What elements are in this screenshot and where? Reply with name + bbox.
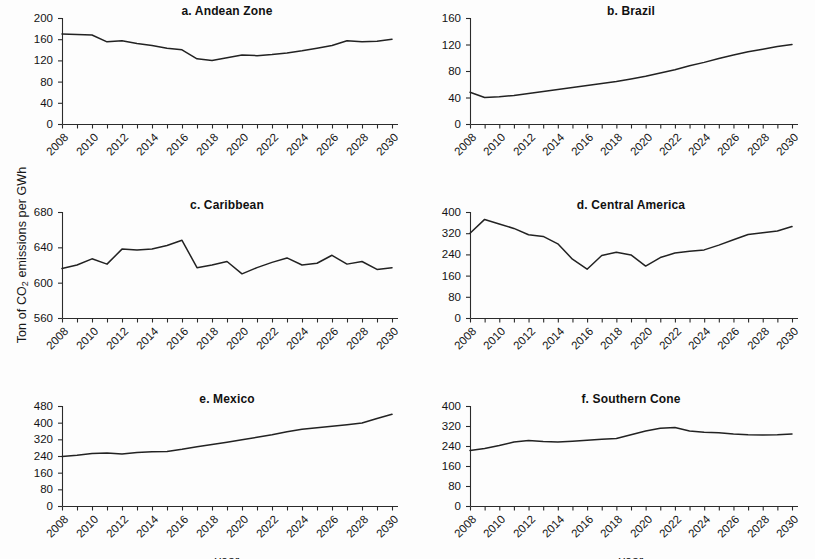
- x-tick-label-a: 2030: [368, 131, 401, 164]
- x-tick-label-d: 2024: [680, 325, 713, 358]
- x-tick-label-f: 2018: [592, 513, 625, 546]
- plot-area-d: 0801602403204002008201020122014201620182…: [470, 212, 792, 318]
- x-tick-label-d: 2010: [475, 325, 508, 358]
- plot-svg-c: [62, 212, 400, 326]
- plot-area-f: 0801602403204002008201020122014201620182…: [470, 406, 792, 506]
- x-tick-label-d: 2016: [563, 325, 596, 358]
- x-tick-label-e: 2026: [308, 513, 341, 546]
- y-tick-label-c: 600: [1, 277, 53, 289]
- data-series-line-b: [470, 45, 792, 98]
- y-tick-label-e: 480: [1, 400, 53, 412]
- x-tick-label-e: 2028: [338, 513, 371, 546]
- x-tick-label-b: 2008: [446, 131, 479, 164]
- plot-area-e: 0801602403204004802008201020122014201620…: [62, 406, 392, 506]
- x-tick-label-a: 2014: [128, 131, 161, 164]
- plot-area-b: 0408012016020082010201220142016201820202…: [470, 18, 792, 124]
- plot-svg-b: [470, 18, 800, 132]
- x-tick-label-b: 2014: [534, 131, 567, 164]
- x-tick-label-c: 2008: [38, 325, 71, 358]
- x-tick-label-e: 2020: [218, 513, 251, 546]
- x-tick-label-d: 2020: [622, 325, 655, 358]
- x-tick-label-a: 2010: [68, 131, 101, 164]
- y-tick-label-a: 160: [1, 33, 53, 45]
- y-tick-label-f: 160: [409, 460, 461, 472]
- y-tick-label-e: 80: [1, 483, 53, 495]
- x-tick-label-b: 2022: [651, 131, 684, 164]
- y-tick-label-e: 320: [1, 433, 53, 445]
- y-tick-label-e: 0: [1, 500, 53, 512]
- x-tick-label-a: 2024: [278, 131, 311, 164]
- x-tick-label-b: 2016: [563, 131, 596, 164]
- y-tick-label-e: 400: [1, 417, 53, 429]
- chart-panel-c: c. Caribbean5606006406802008201020122014…: [62, 198, 392, 362]
- x-tick-label-a: 2016: [158, 131, 191, 164]
- x-tick-label-f: 2020: [622, 513, 655, 546]
- y-tick-label-b: 0: [409, 118, 461, 130]
- data-series-line-f: [470, 428, 792, 451]
- x-tick-label-b: 2020: [622, 131, 655, 164]
- chart-panel-a: a. Andean Zone04080120160200200820102012…: [62, 4, 392, 168]
- plot-svg-a: [62, 18, 400, 132]
- y-tick-label-f: 0: [409, 500, 461, 512]
- x-tick-label-b: 2010: [475, 131, 508, 164]
- y-tick-label-b: 160: [409, 12, 461, 24]
- x-axis-title-f: year: [470, 554, 792, 559]
- x-tick-label-e: 2030: [368, 513, 401, 546]
- y-tick-label-d: 320: [409, 227, 461, 239]
- x-tick-label-f: 2010: [475, 513, 508, 546]
- plot-svg-f: [470, 406, 800, 514]
- x-tick-label-c: 2022: [248, 325, 281, 358]
- panel-title-c: c. Caribbean: [62, 198, 392, 212]
- x-tick-label-d: 2014: [534, 325, 567, 358]
- y-tick-label-f: 80: [409, 480, 461, 492]
- x-tick-label-c: 2024: [278, 325, 311, 358]
- x-tick-label-d: 2018: [592, 325, 625, 358]
- x-tick-label-e: 2010: [68, 513, 101, 546]
- data-series-line-c: [62, 240, 392, 274]
- chart-panel-e: e. Mexico0801602403204004802008201020122…: [62, 392, 392, 559]
- y-tick-label-a: 40: [1, 97, 53, 109]
- x-tick-label-a: 2026: [308, 131, 341, 164]
- plot-svg-d: [470, 212, 800, 326]
- plot-area-a: 0408012016020020082010201220142016201820…: [62, 18, 392, 124]
- y-tick-label-f: 320: [409, 420, 461, 432]
- x-tick-label-b: 2028: [739, 131, 772, 164]
- x-tick-label-c: 2016: [158, 325, 191, 358]
- panel-title-a: a. Andean Zone: [62, 4, 392, 18]
- x-tick-label-e: 2012: [98, 513, 131, 546]
- x-tick-label-e: 2016: [158, 513, 191, 546]
- x-tick-label-c: 2010: [68, 325, 101, 358]
- plot-area-c: 5606006406802008201020122014201620182020…: [62, 212, 392, 318]
- x-tick-label-d: 2012: [504, 325, 537, 358]
- chart-panel-f: f. Southern Cone080160240320400200820102…: [470, 392, 792, 559]
- panel-title-d: d. Central America: [470, 198, 792, 212]
- y-tick-label-c: 640: [1, 241, 53, 253]
- x-tick-label-f: 2026: [709, 513, 742, 546]
- x-tick-label-d: 2026: [709, 325, 742, 358]
- x-tick-label-c: 2012: [98, 325, 131, 358]
- panel-title-f: f. Southern Cone: [470, 392, 792, 406]
- y-tick-label-a: 80: [1, 76, 53, 88]
- x-tick-label-f: 2028: [739, 513, 772, 546]
- plot-svg-e: [62, 406, 400, 514]
- x-tick-label-f: 2016: [563, 513, 596, 546]
- y-axis-title: Ton of CO2 emissions per GWh: [15, 155, 29, 355]
- y-tick-label-d: 240: [409, 248, 461, 260]
- x-tick-label-e: 2008: [38, 513, 71, 546]
- x-tick-label-f: 2022: [651, 513, 684, 546]
- chart-panel-d: d. Central America0801602403204002008201…: [470, 198, 792, 362]
- x-tick-label-c: 2028: [338, 325, 371, 358]
- y-tick-label-e: 240: [1, 450, 53, 462]
- y-tick-label-c: 680: [1, 206, 53, 218]
- x-tick-label-f: 2008: [446, 513, 479, 546]
- x-tick-label-f: 2012: [504, 513, 537, 546]
- x-tick-label-b: 2018: [592, 131, 625, 164]
- y-tick-label-d: 80: [409, 291, 461, 303]
- x-tick-label-b: 2024: [680, 131, 713, 164]
- data-series-line-a: [62, 34, 392, 61]
- x-tick-label-e: 2024: [278, 513, 311, 546]
- figure-root: Ton of CO2 emissions per GWh a. Andean Z…: [0, 0, 815, 559]
- y-tick-label-a: 0: [1, 118, 53, 130]
- y-tick-label-b: 40: [409, 92, 461, 104]
- x-tick-label-a: 2012: [98, 131, 131, 164]
